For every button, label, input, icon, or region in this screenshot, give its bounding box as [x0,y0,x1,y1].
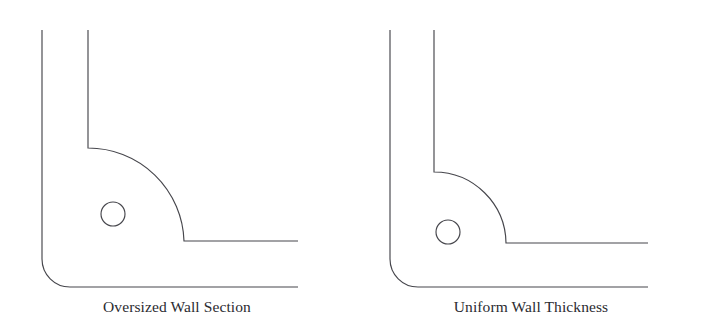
oversized-inner-wall-profile [88,30,298,241]
uniform-outer-wall-profile [390,30,648,287]
oversized-bore-circle [101,202,125,226]
caption-oversized-wall-section: Oversized Wall Section [0,297,354,317]
figure-oversized-wall-section: Oversized Wall Section [0,0,354,335]
uniform-bore-circle [436,220,460,244]
oversized-outer-wall-profile [42,30,298,287]
uniform-wall-thickness-drawing [354,0,708,300]
uniform-inner-wall-profile [434,30,648,243]
figure-uniform-wall-thickness: Uniform Wall Thickness [354,0,708,335]
wall-section-comparison-figure: Oversized Wall Section Uniform Wall Thic… [0,0,708,335]
oversized-wall-section-drawing [0,0,354,300]
caption-uniform-wall-thickness: Uniform Wall Thickness [354,297,708,317]
